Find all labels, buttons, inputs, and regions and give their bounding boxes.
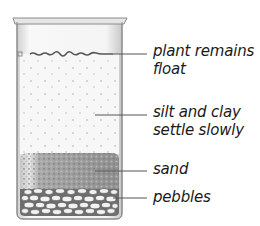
pebbles-layer (20, 189, 119, 216)
label-line: silt and clay (153, 103, 244, 121)
label-line: pebbles (153, 188, 211, 206)
label-silt-clay: silt and clay settle slowly (153, 103, 244, 139)
label-line: float (153, 60, 254, 78)
water-silt-layer (20, 54, 119, 154)
label-line: plant remains (153, 42, 254, 60)
label-line: sand (153, 160, 188, 178)
label-line: settle slowly (153, 121, 244, 139)
sedimentation-diagram: plant remains float silt and clay settle… (0, 0, 260, 226)
label-sand: sand (153, 160, 188, 178)
label-plant-remains: plant remains float (153, 42, 254, 78)
label-pebbles: pebbles (153, 188, 211, 206)
